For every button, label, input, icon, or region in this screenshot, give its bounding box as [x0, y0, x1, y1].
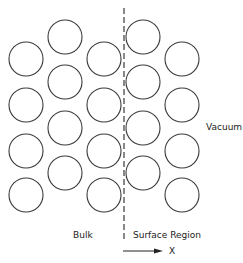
atom-circle — [87, 178, 121, 212]
atom-circle — [9, 178, 43, 212]
atom-circle — [87, 88, 121, 122]
atom-circle — [165, 42, 199, 76]
atom-circle — [126, 156, 160, 190]
atom-circle — [126, 20, 160, 54]
atom-circle — [48, 65, 82, 99]
atom-circle — [165, 134, 199, 168]
atom-circle — [9, 42, 43, 76]
x-axis-arrow — [123, 249, 163, 254]
arrow-head-icon — [154, 249, 163, 254]
vacuum-label: Vacuum — [206, 122, 242, 132]
atom-circle — [126, 111, 160, 145]
atom-circle — [126, 65, 160, 99]
atom-circle — [9, 88, 43, 122]
bulk-label: Bulk — [73, 230, 93, 240]
surface-region-label: Surface Region — [133, 230, 201, 240]
atom-circle — [48, 111, 82, 145]
atom-circle — [165, 88, 199, 122]
atom-circle — [48, 156, 82, 190]
x-axis-label: X — [169, 246, 175, 256]
atom-circle — [87, 134, 121, 168]
atom-circle — [48, 20, 82, 54]
atom-lattice — [9, 20, 199, 212]
atom-circle — [9, 134, 43, 168]
atom-circle — [165, 178, 199, 212]
atom-circle — [87, 42, 121, 76]
